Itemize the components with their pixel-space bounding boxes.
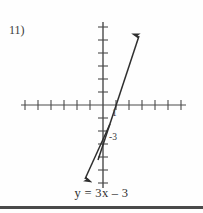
y-intercept-label: -3 [109, 132, 117, 142]
equation-caption: y = 3x – 3 [0, 186, 203, 201]
worksheet-problem-card: 11) [0, 0, 203, 213]
graph-line-lower-arrow [85, 124, 110, 179]
page-bottom-rule [0, 206, 203, 209]
graph-line-y-equals-3x-minus-3 [98, 36, 139, 160]
x-intercept-label: 1 [112, 108, 117, 118]
coordinate-plane-graph [0, 0, 203, 213]
